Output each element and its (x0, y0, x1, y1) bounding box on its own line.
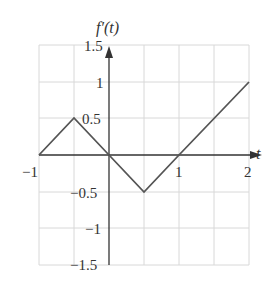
y-axis-label: f′(t) (96, 19, 119, 37)
y-axis-arrow-icon (105, 46, 113, 58)
chart: f′(t) t −1 1 2 1.5 1 0.5 −0.5 −1 −1.5 (0, 0, 278, 291)
y-tick-1: 1 (96, 75, 104, 91)
y-tick-0-5: 0.5 (82, 111, 101, 127)
y-tick-1-5: 1.5 (84, 38, 103, 54)
x-tick-m1: −1 (22, 164, 38, 180)
x-axis-label: t (256, 145, 261, 162)
y-tick-m0-5: −0.5 (70, 185, 97, 201)
x-tick-1: 1 (175, 164, 183, 180)
x-tick-2: 2 (244, 164, 252, 180)
y-tick-m1: −1 (85, 221, 101, 237)
y-tick-m1-5: −1.5 (70, 257, 97, 273)
